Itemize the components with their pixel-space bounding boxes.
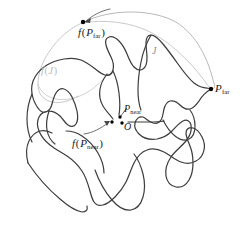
f-p-near-point (110, 120, 113, 123)
label-origin: O (124, 122, 131, 132)
jordan-curve-right-hook (163, 110, 195, 140)
arrow-to-f-p-far (84, 9, 110, 23)
label-f-j: f(J) (41, 66, 58, 76)
arrow-to-f-p-near (84, 121, 110, 134)
figure-canvas: f(Pfar) Pfar J f(J) Pnear O f(Pnear) (0, 0, 252, 227)
f-p-far-point (81, 20, 85, 24)
jordan-curve-bottom-sweep (28, 163, 87, 212)
label-f-p-far: f(Pfar) (78, 27, 106, 40)
label-f-j-close-paren: ) (53, 65, 58, 76)
jordan-curve-spur-upper (138, 35, 151, 110)
jordan-curve-left-notch (47, 111, 55, 144)
label-p-far: Pfar (215, 83, 229, 96)
jordan-curve-far-left-edge (27, 94, 32, 142)
faint-outer-arc (84, 12, 215, 89)
label-f-p-near-close-paren: ) (99, 137, 104, 149)
label-p-far-base: P (215, 82, 222, 94)
jordan-curve-inner-fold-right (128, 121, 164, 122)
label-p-near: Pnear (124, 104, 141, 115)
jordan-curve-spur-mid (113, 71, 120, 115)
main-jordan-curve-group (27, 35, 211, 212)
arrow-to-f-p-near-shaft (84, 123, 108, 134)
label-p-far-sub: far (222, 88, 230, 95)
label-j: J (152, 46, 157, 56)
faint-lower-connector (38, 74, 108, 100)
label-f-p-near-sub: near (87, 143, 99, 150)
label-f-p-far-close-paren: ) (101, 26, 106, 38)
jordan-curve-outline (32, 35, 211, 205)
label-f-p-near: f(Pnear) (72, 138, 104, 151)
p-far-point (209, 87, 213, 91)
label-p-near-sub: near (130, 108, 141, 115)
label-f-p-far-sub: far (93, 32, 101, 39)
